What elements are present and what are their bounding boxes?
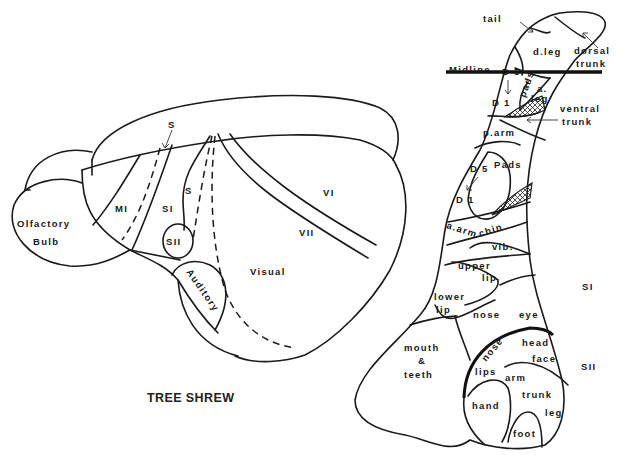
label-foot: foot [513, 428, 536, 439]
label-tail: tail [483, 13, 502, 24]
label-trunk: trunk [522, 389, 552, 400]
label-dorsal: dorsal [574, 45, 610, 56]
label-s-mid: S [185, 185, 193, 196]
label-visual: Visual [250, 266, 286, 277]
label-sii-map: SII [581, 361, 597, 372]
cortex-top-edge [82, 135, 396, 170]
label-si: SI [162, 203, 174, 214]
label-lower-lip: lip [436, 304, 451, 315]
label-upper-lip: lip [482, 272, 497, 283]
label-olfactory: Olfactory [17, 218, 70, 229]
label-midline: Midline [449, 64, 491, 75]
label-lips: lips [475, 366, 497, 377]
label-leg: leg [545, 407, 563, 418]
label-head: head [522, 337, 549, 348]
diagram-canvas: S S MI SI SII Olfactory Bulb Auditory Vi… [0, 0, 620, 455]
label-teeth: teeth [404, 369, 433, 380]
label-s-top: S [168, 119, 176, 130]
label-bulb: Bulb [33, 236, 59, 247]
label-dorsal-trunk: trunk [576, 58, 606, 69]
label-si-map: SI [582, 281, 594, 292]
label-vi: VI [323, 187, 335, 198]
label-vib: vib. [492, 241, 514, 252]
label-pads-lower: Pads [494, 159, 522, 170]
label-auditory: Auditory [184, 267, 221, 314]
label-mi: MI [115, 203, 128, 214]
label-a-leg-2: leg [531, 93, 549, 104]
cortex-outline [235, 165, 406, 362]
label-eye: eye [519, 309, 539, 320]
label-arm: arm [505, 372, 526, 383]
label-face: face [532, 353, 556, 364]
label-ventral-trunk: trunk [562, 116, 592, 127]
label-d-leg: d.leg [533, 46, 562, 57]
label-p-arm: p.arm [483, 127, 515, 138]
label-d1-lower: D 1 [456, 194, 475, 205]
label-ventral: ventral [560, 103, 600, 114]
hemisphere-outline [92, 96, 398, 160]
label-lower: lower [434, 291, 465, 302]
label-hand: hand [472, 400, 500, 411]
label-vii: VII [299, 227, 315, 238]
label-mouth: mouth [404, 342, 440, 353]
label-nose: nose [473, 309, 500, 320]
label-chin: chin [477, 221, 504, 239]
label-d5-upper: D 5 [502, 66, 521, 77]
label-d5-lower: D 5 [470, 163, 489, 174]
figure-title: TREE SHREW [147, 391, 234, 405]
label-amp: & [418, 355, 426, 366]
label-d1-upper: D 1 [492, 97, 511, 108]
label-a-arm: a.arm [445, 219, 479, 239]
brain-diagram [12, 96, 406, 362]
label-sii: SII [166, 236, 182, 247]
label-upper: upper [458, 260, 491, 271]
